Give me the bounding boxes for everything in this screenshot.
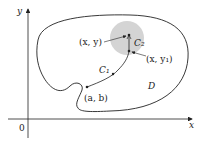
label-x-y1: (x, y₁) <box>146 54 173 64</box>
x-axis-label: x <box>189 120 194 130</box>
label-region-d: D <box>147 81 155 91</box>
point-x-y <box>128 34 131 37</box>
y-axis-label: y <box>16 6 23 16</box>
point-x-y1 <box>128 50 131 53</box>
point-on-c1 <box>112 73 114 75</box>
diagram: y x 0 (x, y) (x, y₁) C₂ C₁ (a, b) D <box>0 0 204 143</box>
label-c1: C₁ <box>99 65 110 75</box>
leader-x-y1 <box>132 52 146 56</box>
label-a-b: (a, b) <box>84 93 108 103</box>
origin-label: 0 <box>19 123 25 133</box>
label-x-y: (x, y) <box>79 37 102 47</box>
label-c2: C₂ <box>134 38 145 48</box>
point-a-b <box>86 86 89 89</box>
diagram-svg: y x 0 (x, y) (x, y₁) C₂ C₁ (a, b) D <box>0 0 204 143</box>
